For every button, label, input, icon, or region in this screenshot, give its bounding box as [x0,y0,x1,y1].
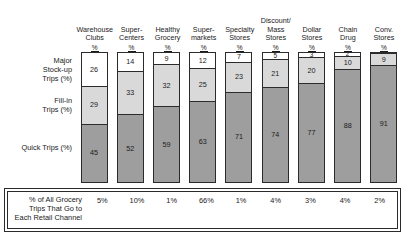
bar-value-major-stockup-4: 7 [237,53,241,61]
bar-segment-major-stockup-1: 14 [118,53,143,71]
bar-segment-fillin-2: 32 [154,64,179,106]
footer-caption-line3: Each Retail Channel [8,214,82,223]
column-header-3-line2: markets [186,34,221,42]
row-label-fillin-line2: Trips (%) [42,105,72,114]
column-headers: WarehouseClubs%Super-Centers%HealthyGroc… [76,6,402,52]
column-header-2: HealthyGrocery% [150,26,186,52]
bar-segment-quick-trips-5: 74 [263,87,288,182]
column-header-0-line2: Clubs [77,34,114,42]
column-header-6-line2: Stores [294,34,329,42]
column-header-2-line2: Grocery [150,34,185,42]
bar-segment-major-stockup-4: 7 [226,53,251,62]
column-header-3: Super-markets% [186,26,222,52]
bar-value-fillin-2: 32 [163,82,171,90]
bar-segment-fillin-1: 33 [118,71,143,114]
bar-column-7[interactable]: 21088 [330,52,366,183]
column-header-8-unit: % [380,44,388,53]
row-label-major-line2: Stock-up [43,65,72,74]
footer-share-5: 4% [258,196,293,205]
column-header-6: DollarStores% [294,26,330,52]
column-header-8-line2: Stores [366,34,401,42]
bar-column-1[interactable]: 143352 [112,52,148,183]
bar-segment-quick-trips-2: 59 [154,106,179,182]
bar-segment-quick-trips-1: 52 [118,114,143,182]
footer-caption: % of All Grocery Trips That Go to Each R… [8,192,85,222]
bar-value-quick-trips-7: 88 [344,122,352,130]
bar-value-fillin-8: 9 [382,56,386,64]
column-header-3-unit: % [200,44,208,53]
bar-segment-quick-trips-3: 63 [190,101,215,182]
column-header-7-unit: % [344,44,352,53]
stacked-bar-3[interactable]: 122563 [189,52,216,183]
bar-segment-quick-trips-4: 71 [226,92,251,182]
footer-box: % of All Grocery Trips That Go to Each R… [4,188,401,232]
bar-value-quick-trips-0: 45 [90,149,98,157]
bar-segment-fillin-8: 9 [371,53,396,65]
row-label-group: Major Stock-up Trips (%) Fill-in Trips (… [2,52,74,183]
bar-value-quick-trips-2: 59 [163,141,171,149]
bar-value-quick-trips-6: 77 [307,129,315,137]
row-label-fillin-line1: Fill-in [54,96,72,105]
bar-segment-fillin-4: 23 [226,62,251,92]
stacked-bar-5[interactable]: 52174 [262,52,289,183]
stacked-bar-2[interactable]: 93259 [153,52,180,183]
bar-column-2[interactable]: 93259 [148,52,184,183]
stacked-bar-6[interactable]: 32077 [298,52,325,183]
bar-group: 2629451433529325912256372371521743207721… [76,52,402,183]
footer-share-1: 10% [120,196,155,205]
bar-segment-quick-trips-0: 45 [82,124,107,182]
bar-segment-fillin-3: 25 [190,68,215,101]
footer-share-4: 1% [224,196,259,205]
bar-column-3[interactable]: 122563 [185,52,221,183]
column-header-1: Super-Centers% [114,26,150,52]
stacked-bar-7[interactable]: 21088 [334,52,361,183]
footer-share-6: 3% [293,196,328,205]
footer-inner-box: % of All Grocery Trips That Go to Each R… [7,191,398,229]
bar-segment-quick-trips-8: 91 [371,65,396,182]
footer-value-group: 5%10%1%66%1%4%3%4%2% [85,192,397,205]
bar-column-4[interactable]: 72371 [221,52,257,183]
bar-segment-major-stockup-3: 12 [190,53,215,68]
bar-segment-major-stockup-2: 9 [154,53,179,64]
bar-value-quick-trips-8: 91 [380,120,388,128]
bar-value-fillin-1: 33 [126,89,134,97]
footer-share-2: 1% [154,196,189,205]
bar-value-quick-trips-3: 63 [199,138,207,146]
column-header-1-line2: Centers [114,34,149,42]
bar-value-quick-trips-5: 74 [271,131,279,139]
bar-value-major-stockup-0: 26 [90,66,98,74]
stacked-bar-chart: WarehouseClubs%Super-Centers%HealthyGroc… [0,0,405,237]
bar-segment-fillin-5: 21 [263,59,288,87]
bar-segment-major-stockup-0: 26 [82,53,107,86]
stacked-bar-0[interactable]: 262945 [81,52,108,183]
bar-column-6[interactable]: 32077 [293,52,329,183]
bar-value-fillin-4: 23 [235,73,243,81]
row-label-quick-line1: Quick Trips (%) [21,143,72,152]
column-header-5: Discount/MassStores% [258,17,294,52]
row-label-fillin: Fill-in Trips (%) [42,97,72,115]
bar-column-5[interactable]: 52174 [257,52,293,183]
footer-share-7: 4% [328,196,363,205]
bar-value-quick-trips-4: 71 [235,133,243,141]
stacked-bar-1[interactable]: 143352 [117,52,144,183]
bar-column-8[interactable]: 991 [366,52,402,183]
bar-column-0[interactable]: 262945 [76,52,112,183]
column-header-0-unit: % [91,44,99,53]
bar-value-fillin-6: 20 [307,67,315,75]
bar-segment-fillin-7: 10 [335,56,360,70]
row-label-major-line1: Major [54,56,72,65]
bar-segment-fillin-6: 20 [299,57,324,83]
bar-value-fillin-5: 21 [271,70,279,78]
stacked-bar-8[interactable]: 991 [370,52,397,183]
column-header-1-unit: % [128,44,136,53]
column-header-5-line3: Stores [258,34,293,42]
column-header-2-unit: % [164,44,172,53]
row-label-major-line3: Trips (%) [42,74,72,83]
column-header-7-line2: Drug [330,34,365,42]
stacked-bar-4[interactable]: 72371 [225,52,252,183]
row-label-major-stockup: Major Stock-up Trips (%) [42,57,72,83]
column-header-4: SpecialtyStores% [222,26,258,52]
row-label-quick-trips: Quick Trips (%) [21,144,72,153]
column-header-6-unit: % [308,44,316,53]
bar-segment-quick-trips-7: 88 [335,69,360,182]
